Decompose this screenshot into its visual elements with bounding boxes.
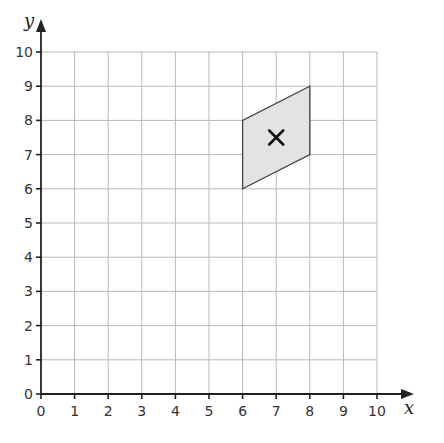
y-tick-label: 7	[24, 147, 33, 163]
x-tick-label: 3	[137, 403, 146, 419]
x-tick-label: 9	[339, 403, 348, 419]
y-tick-label: 2	[24, 318, 33, 334]
y-tick-label: 0	[24, 386, 33, 402]
x-tick-label: 0	[37, 403, 46, 419]
x-axis-label: x	[404, 397, 414, 418]
y-axis-arrow-icon	[36, 19, 46, 32]
x-tick-label: 4	[171, 403, 180, 419]
y-tick-label: 6	[24, 181, 33, 197]
y-tick-label: 9	[24, 78, 33, 94]
y-tick-label: 8	[24, 112, 33, 128]
x-tick-label: 1	[70, 403, 79, 419]
axes: x y	[23, 10, 414, 418]
y-tick-label: 5	[24, 215, 33, 231]
x-tick-label: 6	[238, 403, 247, 419]
x-tick-label: 8	[305, 403, 314, 419]
x-tick-label: 2	[104, 403, 113, 419]
y-axis-label: y	[23, 10, 35, 31]
ticks: 012345678910012345678910	[15, 44, 386, 419]
x-tick-label: 7	[272, 403, 281, 419]
y-tick-label: 1	[24, 352, 33, 368]
y-tick-label: 3	[24, 283, 33, 299]
grid-lines	[41, 52, 377, 394]
y-tick-label: 4	[24, 249, 33, 265]
coordinate-grid: x y 012345678910012345678910	[0, 0, 444, 443]
x-tick-label: 5	[205, 403, 214, 419]
x-tick-label: 10	[368, 403, 386, 419]
y-tick-label: 10	[15, 44, 33, 60]
